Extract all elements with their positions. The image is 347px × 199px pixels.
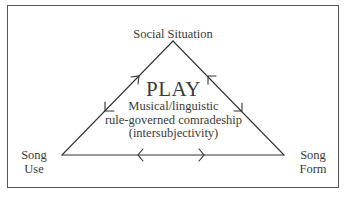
desc-line-2: rule-governed comradeship <box>0 114 347 128</box>
node-song-use-line1: Song <box>14 148 54 162</box>
desc-line-1: Musical/linguistic <box>0 100 347 114</box>
desc-line-3: (intersubjectivity) <box>0 127 347 141</box>
node-song-form-line2: Form <box>290 162 336 176</box>
node-song-form: Song Form <box>290 148 336 176</box>
node-song-use: Song Use <box>14 148 54 176</box>
node-song-use-line2: Use <box>14 162 54 176</box>
center-description: Musical/linguistic rule-governed comrade… <box>0 100 347 141</box>
node-social-situation: Social Situation <box>113 27 233 41</box>
node-song-form-line1: Song <box>290 148 336 162</box>
